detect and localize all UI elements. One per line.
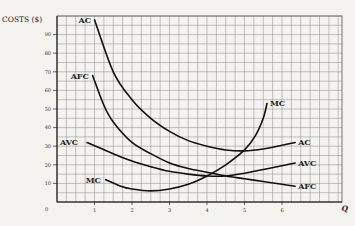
y-tick-label: 20 xyxy=(45,162,51,168)
y-tick-label: 60 xyxy=(45,87,51,93)
label-afc-start: AFC xyxy=(70,71,89,81)
y-tick-label: 40 xyxy=(45,124,51,130)
label-avc-end: AVC xyxy=(297,158,316,168)
y-tick-label: 90 xyxy=(45,31,51,37)
label-mc-start: MC xyxy=(86,175,101,185)
y-axis-title: COSTS ($) xyxy=(2,15,42,24)
x-tick-label: 4 xyxy=(205,207,208,213)
label-avc-start: AVC xyxy=(59,137,78,147)
curves xyxy=(87,20,295,191)
label-mc-end: MC xyxy=(270,98,285,108)
cost-curves-chart: 1020304050607080901234560COSTS ($)Q ACAC… xyxy=(0,0,355,226)
x-tick-label: 5 xyxy=(243,207,246,213)
x-tick-label: 1 xyxy=(93,207,96,213)
label-afc-end: AFC xyxy=(297,181,316,191)
y-tick-label: 30 xyxy=(45,143,51,149)
x-tick-label: 3 xyxy=(168,207,171,213)
curve-ac xyxy=(95,20,296,151)
origin-label: 0 xyxy=(45,206,48,212)
curve-avc xyxy=(87,142,295,176)
x-tick-label: 2 xyxy=(130,207,133,213)
x-axis-title: Q xyxy=(341,204,348,213)
label-ac-start: AC xyxy=(78,15,92,25)
x-tick-label: 6 xyxy=(280,207,283,213)
y-tick-label: 50 xyxy=(45,106,51,112)
y-tick-label: 70 xyxy=(45,69,51,75)
y-tick-label: 80 xyxy=(45,50,51,56)
y-tick-label: 10 xyxy=(45,180,51,186)
label-ac-end: AC xyxy=(297,137,311,147)
